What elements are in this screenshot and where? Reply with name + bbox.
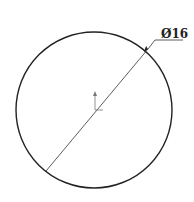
circle-outline[interactable] [16,32,172,188]
diameter-dimension-label: Ø16 [161,27,188,41]
drawing-canvas: Ø16 [0,0,194,202]
dimension-leader-shoulder [148,40,183,49]
origin-axis-icon [93,91,103,110]
